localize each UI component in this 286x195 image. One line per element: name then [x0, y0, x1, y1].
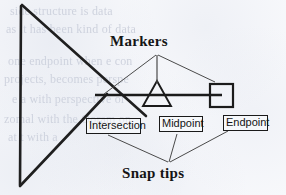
callout-intersection: Intersection: [86, 118, 141, 134]
midpoint-triangle-marker: [143, 81, 171, 106]
snap-tips-heading: Snap tips: [122, 165, 184, 182]
callout-endpoint: Endpoint: [223, 115, 268, 131]
leader-markers-to-endpoint: [158, 55, 215, 82]
diagonal-line-stroke: [22, 5, 146, 116]
leader-snaptips-to-midpoint: [169, 134, 177, 162]
markers-heading: Markers: [110, 33, 168, 50]
diagonal-line: [20, 6, 21, 185]
leader-snaptips-to-intersection: [108, 135, 168, 162]
leader-markers-to-intersection: [104, 55, 156, 94]
scanned-figure: side structure is data as it has been ki…: [0, 0, 286, 195]
callout-midpoint: Midpoint: [159, 116, 203, 132]
leader-snaptips-to-endpoint: [170, 131, 228, 162]
diagonal-line-stroke-lower: [20, 94, 107, 186]
